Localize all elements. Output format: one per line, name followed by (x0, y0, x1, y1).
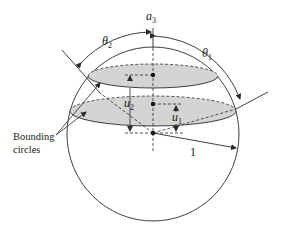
callout-line-2: circles (13, 143, 54, 156)
theta1-ray (236, 92, 268, 109)
theta2-label: θ2 (102, 35, 112, 50)
a3-axis-label: a3 (146, 10, 156, 25)
radius-label: 1 (190, 146, 196, 158)
a3-subscript: 3 (152, 16, 156, 25)
u1-subscript: 1 (178, 117, 182, 126)
u2-label: u2 (124, 97, 134, 112)
bounding-circles-label: Bounding circles (13, 130, 54, 156)
sphere-diagram (0, 0, 282, 231)
theta2-subscript: 2 (108, 41, 112, 50)
u1-label: u1 (172, 111, 182, 126)
callout-line-1: Bounding (13, 130, 54, 143)
theta1-label: θ1 (202, 47, 212, 62)
theta1-subscript: 1 (208, 53, 212, 62)
u2-subscript: 2 (130, 103, 134, 112)
